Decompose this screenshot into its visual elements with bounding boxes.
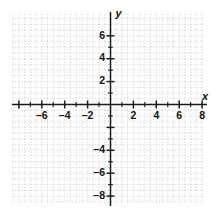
graph-canvas: –6–4–22468642–4–6–8 x y: [0, 0, 213, 217]
y-tick-label: 2: [99, 74, 105, 86]
x-tick-label: 4: [153, 109, 159, 121]
y-tick-label: –8: [93, 189, 105, 201]
x-tick-label: 8: [199, 109, 205, 121]
x-axis-label: x: [201, 90, 209, 102]
y-tick-label: –6: [93, 166, 105, 178]
x-tick-label: 2: [130, 109, 136, 121]
x-tick-label: –2: [82, 109, 94, 121]
x-tick-label: –4: [59, 109, 71, 121]
y-axis-label: y: [115, 7, 123, 19]
coordinate-plane-graph: –6–4–22468642–4–6–8 x y: [0, 0, 213, 217]
y-tick-label: 6: [99, 29, 105, 41]
y-tick-label: 4: [99, 51, 105, 63]
y-tick-label: –4: [93, 143, 105, 155]
x-tick-label: –6: [36, 109, 48, 121]
x-tick-label: 6: [176, 109, 182, 121]
